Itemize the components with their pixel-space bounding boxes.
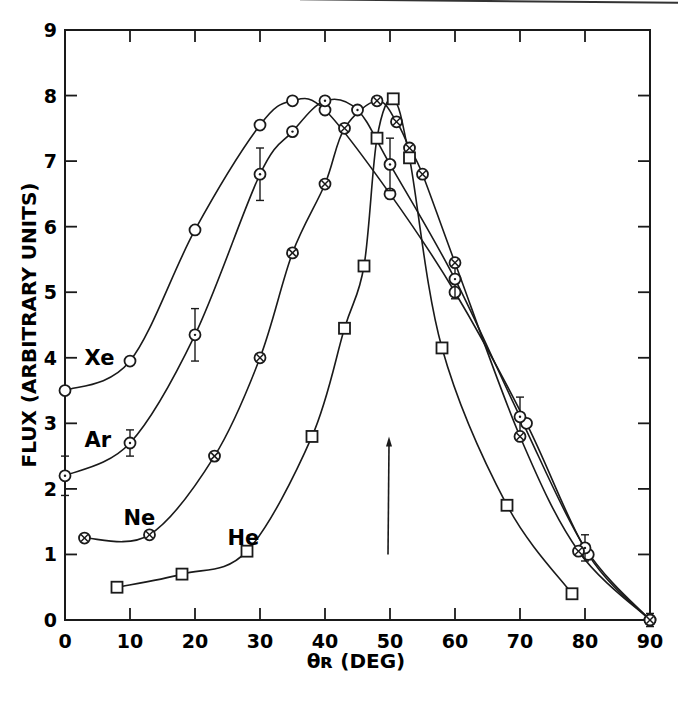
- marker-open-square: [177, 569, 188, 580]
- marker-open-square: [567, 588, 578, 599]
- marker-crossed-circle: [144, 529, 155, 540]
- y-tick-label: 1: [44, 543, 57, 565]
- series-label-ne: Ne: [124, 506, 156, 530]
- marker-open-square: [339, 323, 350, 334]
- curve-xe: [65, 98, 650, 620]
- marker-open-square: [307, 431, 318, 442]
- annotation-arrow: [386, 436, 392, 554]
- marker-open-square: [112, 582, 123, 593]
- y-tick-label: 0: [44, 609, 57, 631]
- marker-open-circle: [287, 95, 298, 106]
- x-tick-label: 90: [637, 630, 663, 652]
- marker-dotted-circle: [60, 470, 71, 481]
- y-tick-label: 6: [44, 216, 57, 238]
- y-tick-label: 7: [44, 150, 57, 172]
- y-tick-label: 4: [44, 347, 57, 369]
- marker-crossed-circle: [320, 179, 331, 190]
- marker-dotted-circle: [287, 126, 298, 137]
- marker-crossed-circle: [372, 95, 383, 106]
- curve-ar: [65, 99, 650, 620]
- series-label-ar: Ar: [85, 428, 112, 452]
- y-tick-label: 2: [44, 478, 57, 500]
- marker-open-circle: [255, 120, 266, 131]
- marker-open-square: [404, 152, 415, 163]
- marker-crossed-circle: [339, 123, 350, 134]
- marker-dotted-circle: [515, 411, 526, 422]
- y-axis-label: FLUX (ARBITRARY UNITS): [17, 183, 41, 468]
- marker-open-circle: [60, 385, 71, 396]
- x-tick-label: 10: [117, 630, 143, 652]
- marker-dotted-circle: [125, 438, 136, 449]
- marker-dotted-circle: [352, 104, 363, 115]
- x-tick-label: 80: [572, 630, 598, 652]
- marker-crossed-circle: [645, 615, 656, 626]
- y-tick-label: 5: [44, 281, 57, 303]
- series-label-xe: Xe: [85, 346, 115, 370]
- marker-open-circle: [125, 356, 136, 367]
- marker-dotted-circle: [190, 329, 201, 340]
- series-label-he: He: [228, 526, 260, 550]
- x-tick-label: 0: [58, 630, 71, 652]
- flux-vs-angle-chart: 01020304050607080900123456789 XeArNeHe θ…: [0, 0, 678, 702]
- marker-crossed-circle: [515, 431, 526, 442]
- marker-open-circle: [190, 224, 201, 235]
- marker-crossed-circle: [391, 116, 402, 127]
- data-markers: [60, 93, 656, 626]
- marker-crossed-circle: [417, 169, 428, 180]
- x-tick-label: 60: [442, 630, 468, 652]
- marker-crossed-circle: [209, 451, 220, 462]
- marker-open-square: [372, 133, 383, 144]
- marker-crossed-circle: [79, 533, 90, 544]
- marker-crossed-circle: [450, 257, 461, 268]
- marker-crossed-circle: [255, 352, 266, 363]
- marker-open-square: [388, 93, 399, 104]
- marker-open-square: [437, 342, 448, 353]
- marker-open-square: [502, 500, 513, 511]
- x-tick-label: 30: [247, 630, 273, 652]
- y-tick-label: 8: [44, 85, 57, 107]
- marker-crossed-circle: [573, 546, 584, 557]
- curves: [65, 98, 650, 620]
- marker-dotted-circle: [255, 169, 266, 180]
- x-tick-label: 70: [507, 630, 533, 652]
- x-axis-label: θʀ (DEG): [307, 649, 406, 673]
- y-tick-label: 3: [44, 412, 57, 434]
- curve-he: [117, 98, 572, 593]
- marker-crossed-circle: [287, 247, 298, 258]
- marker-dotted-circle: [450, 274, 461, 285]
- marker-dotted-circle: [320, 95, 331, 106]
- marker-dotted-circle: [385, 159, 396, 170]
- x-tick-label: 20: [182, 630, 208, 652]
- marker-open-square: [359, 261, 370, 272]
- y-tick-label: 9: [44, 19, 57, 41]
- curve-ne: [85, 101, 651, 620]
